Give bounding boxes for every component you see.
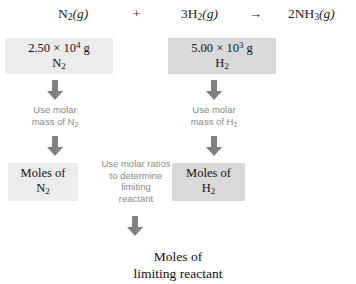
nitrogen-caption-line-1: Use molar: [15, 104, 95, 116]
equation-product-ammonia: 2NH3(g): [288, 6, 335, 25]
reactant-hydrogen-coefficient: 3H: [181, 6, 198, 21]
hydrogen-mass-unit: g: [243, 41, 252, 55]
equation-yields-arrow: →: [249, 6, 262, 22]
nitrogen-mass-box: 2.50 × 104 g N2: [5, 38, 113, 74]
molar-ratios-line-4: reactant: [96, 193, 176, 205]
reactant-nitrogen-formula: N: [58, 6, 68, 21]
down-arrow-icon: [47, 136, 63, 156]
hydrogen-molar-mass-caption: Use molar mass of H2: [174, 104, 254, 130]
conclusion-line-2: limiting reactant: [0, 265, 356, 282]
reactant-nitrogen-state: (g): [73, 6, 89, 21]
equation-reactant-hydrogen: 3H2(g): [181, 6, 218, 25]
molar-ratios-line-2: to determine: [96, 170, 176, 182]
down-arrow-icon: [47, 80, 63, 100]
hydrogen-mass-species: H2: [215, 56, 229, 74]
nitrogen-molar-mass-caption: Use molar mass of N2: [15, 104, 95, 130]
equation-plus-operator: +: [133, 6, 140, 22]
nitrogen-caption-line-2: mass of N2: [15, 116, 95, 130]
down-arrow-icon: [127, 216, 143, 236]
hydrogen-mass-value: 5.00 × 103 g: [191, 38, 253, 56]
hydrogen-caption-line-2: mass of H2: [174, 116, 254, 130]
hydrogen-moles-label: Moles of: [186, 166, 231, 181]
molar-ratios-line-3: limiting: [96, 181, 176, 193]
hydrogen-caption-line-1: Use molar: [174, 104, 254, 116]
nitrogen-mass-unit: g: [80, 41, 89, 55]
conclusion-line-1: Moles of: [0, 248, 356, 265]
equation-reactant-nitrogen: N2(g): [58, 6, 88, 25]
molar-ratios-caption: Use molar ratios to determine limiting r…: [96, 158, 176, 204]
reactant-hydrogen-state: (g): [202, 6, 218, 21]
product-ammonia-coefficient: 2NH: [288, 6, 314, 21]
hydrogen-mass-box: 5.00 × 103 g H2: [168, 38, 276, 74]
down-arrow-icon: [206, 80, 222, 100]
nitrogen-moles-label: Moles of: [21, 166, 66, 181]
nitrogen-moles-box: Moles of N2: [8, 163, 78, 201]
hydrogen-moles-species: H2: [202, 181, 216, 199]
nitrogen-moles-species: N2: [36, 181, 50, 199]
molar-ratios-line-1: Use molar ratios: [96, 158, 176, 170]
limiting-reactant-flowchart: N2(g) + 3H2(g) → 2NH3(g) 2.50 × 104 g N2…: [0, 0, 356, 284]
nitrogen-mass-value: 2.50 × 104 g: [28, 38, 90, 56]
product-ammonia-state: (g): [319, 6, 335, 21]
down-arrow-icon: [206, 136, 222, 156]
chemical-equation: N2(g) + 3H2(g) → 2NH3(g): [0, 6, 356, 26]
limiting-reactant-conclusion: Moles of limiting reactant: [0, 248, 356, 282]
hydrogen-moles-box: Moles of H2: [172, 163, 245, 201]
nitrogen-mass-species: N2: [52, 56, 66, 74]
